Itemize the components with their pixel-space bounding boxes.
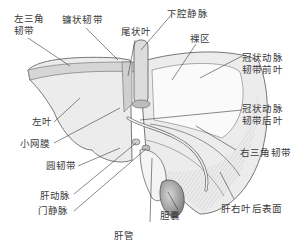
label-right-lobe-posterior-surface: 肝右叶后表面 [221, 203, 282, 215]
label-right-triangular-ligament: 右三角韧带 [240, 147, 291, 159]
label-left-lobe: 左叶 [32, 116, 52, 128]
inferior-vena-cava-shape [122, 40, 150, 112]
label-coronary-ligament-anterior: 冠状动脉 韧带前叶 [242, 52, 283, 76]
label-caudate-lobe: 尾状叶 [121, 26, 152, 38]
label-inferior-vena-cava: 下腔静脉 [167, 8, 208, 20]
label-bare-area: 裸区 [190, 33, 210, 45]
label-portal-vein: 门静脉 [38, 205, 69, 217]
liver-diagram: 左三角 韧带 镰状韧带 尾状叶 下腔静脉 裸区 冠状动脉 韧带前叶 左叶 冠状动… [0, 0, 304, 248]
label-hepatic-duct: 肝管 [114, 230, 134, 242]
label-coronary-ligament-posterior: 冠状动脉 韧带后叶 [242, 103, 283, 127]
label-round-ligament: 圆韧带 [46, 160, 77, 172]
label-left-triangular-ligament: 左三角 韧带 [14, 13, 45, 37]
label-falciform-ligament: 镰状韧带 [62, 14, 103, 26]
label-gallbladder: 胆囊 [160, 210, 180, 222]
label-hepatic-artery: 肝动脉 [40, 190, 71, 202]
label-lesser-omentum: 小网膜 [20, 138, 51, 150]
